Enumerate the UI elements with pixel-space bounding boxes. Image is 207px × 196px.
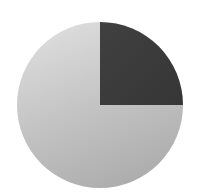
pie-slice-1 (100, 22, 183, 105)
pie-chart-svg (0, 0, 207, 196)
pie-slices (17, 22, 183, 188)
pie-chart (0, 0, 207, 196)
